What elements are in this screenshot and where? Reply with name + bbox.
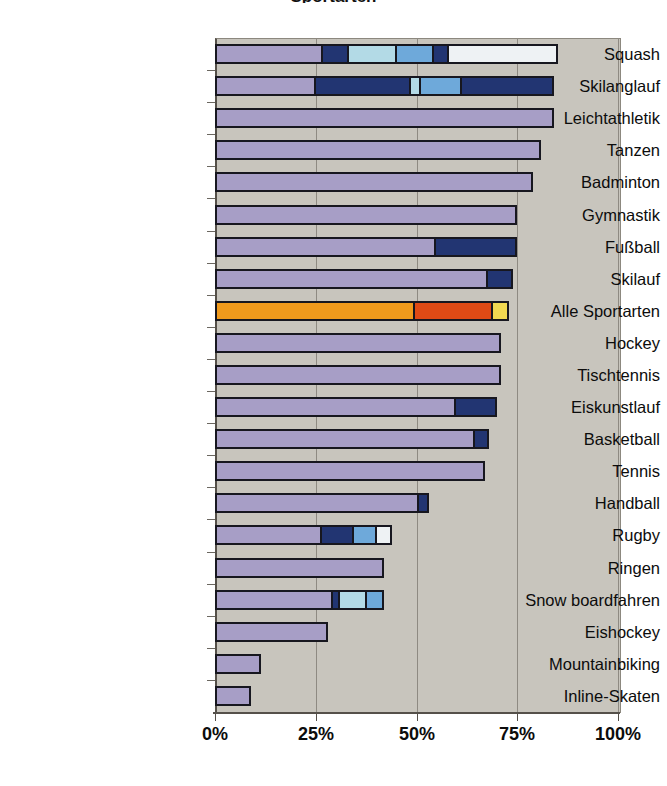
y-axis-tick [207,391,215,392]
bar-segment [409,78,419,94]
y-axis-tick [207,102,215,103]
y-axis-tick [207,166,215,167]
bar-segment [314,78,409,94]
x-axis-label: 75% [499,724,535,745]
bar-segment [419,78,460,94]
category-label: Badminton [461,174,667,191]
bar-segment [417,495,427,511]
bar-segment [347,46,395,62]
x-axis-tick [517,712,518,721]
bar-segment [217,46,321,62]
category-label: Fußball [461,239,667,256]
y-axis-tick [207,327,215,328]
category-label: Ringen [461,560,667,577]
bar-segment [217,463,483,479]
y-axis-tick [207,134,215,135]
y-axis-tick [207,519,215,520]
bar-segment [321,46,346,62]
bar[interactable] [215,525,392,545]
bar[interactable] [215,397,497,417]
bar-segment [395,46,432,62]
category-label: Rugby [461,527,667,544]
bar-segment [217,239,434,255]
bar-segment [365,592,382,608]
bar-segment [217,271,486,287]
category-label: Leichtathletik [461,110,667,127]
y-axis-tick [207,263,215,264]
y-axis-tick [207,584,215,585]
bar-segment [217,303,413,319]
bar[interactable] [215,686,251,706]
category-label: Eishockey [461,624,667,641]
bar-segment [217,335,499,351]
bar-segment [217,688,249,704]
bar[interactable] [215,654,261,674]
bar-segment [217,78,314,94]
bar-segment [331,592,339,608]
category-label: Squash [461,46,667,63]
x-axis-tick [417,712,418,721]
y-axis-tick [207,552,215,553]
bar-segment [217,560,382,576]
bar[interactable] [215,558,384,578]
category-label: Alle Sportarten [461,303,667,320]
category-label: Tanzen [461,142,667,159]
y-axis-tick [207,423,215,424]
x-axis-label: 25% [298,724,334,745]
x-axis-tick [618,712,619,721]
category-label: Eiskunstlauf [461,399,667,416]
bar[interactable] [215,333,501,353]
bar[interactable] [215,590,384,610]
x-axis-label: 0% [202,724,228,745]
y-axis-tick [207,648,215,649]
y-axis-tick [207,455,215,456]
category-label: Basketball [461,431,667,448]
y-axis-tick [207,359,215,360]
bar-segment [338,592,365,608]
y-axis-tick [207,70,215,71]
bar-segment [217,495,417,511]
y-axis-tick [207,231,215,232]
category-label: Handball [461,495,667,512]
x-axis-label: 100% [595,724,641,745]
bar-segment [217,624,326,640]
bar[interactable] [215,365,501,385]
bar-segment [432,46,448,62]
chart-container: Sportarten SquashSkilanglaufLeichtathlet… [0,0,667,786]
category-label: Inline-Skaten [461,688,667,705]
bar-segment [217,367,499,383]
x-axis-label: 50% [399,724,435,745]
category-label: Tennis [461,463,667,480]
chart-title: Sportarten [0,0,667,3]
bar[interactable] [215,622,328,642]
category-label: Skilauf [461,271,667,288]
category-label: Skilanglauf [461,78,667,95]
bar-segment [217,527,320,543]
y-axis-tick [207,616,215,617]
bar-segment [352,527,375,543]
category-label: Gymnastik [461,207,667,224]
bar[interactable] [215,461,485,481]
y-axis-tick [207,198,215,199]
bar-segment [375,527,390,543]
bar-segment [217,399,454,415]
x-axis-tick [215,712,216,721]
category-label: Hockey [461,335,667,352]
bar[interactable] [215,493,429,513]
bar-segment [320,527,352,543]
bar[interactable] [215,429,489,449]
y-axis-tick [207,487,215,488]
category-label: Tischtennis [461,367,667,384]
category-label: Snow boardfahren [461,592,667,609]
bar-segment [217,431,473,447]
bar-segment [217,592,331,608]
y-axis-tick [207,295,215,296]
y-axis-tick [207,680,215,681]
x-axis-tick [316,712,317,721]
bar-segment [217,656,259,672]
category-label: Mountainbiking [461,656,667,673]
